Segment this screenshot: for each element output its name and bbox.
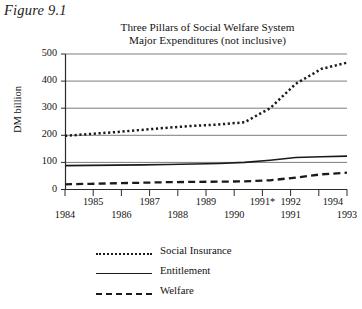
legend-line-sample-icon	[96, 253, 152, 258]
legend-item-label: Welfare	[160, 284, 194, 296]
legend-item: Welfare	[96, 284, 296, 304]
y-axis-tick-label: 200	[23, 128, 57, 139]
y-axis-tick-label: 0	[23, 183, 57, 194]
y-axis-ticks	[61, 54, 65, 190]
x-axis-tick-label-lower: 1984	[42, 209, 88, 220]
y-axis-tick-label: 100	[23, 155, 57, 166]
x-axis-tick-label-lower: 1986	[98, 209, 144, 220]
legend-line-sample-icon	[96, 273, 152, 277]
legend-item-label: Entitlement	[160, 264, 210, 276]
x-axis-tick-label-lower: 1990	[211, 209, 257, 220]
x-axis-tick-label-upper: 1989	[183, 196, 229, 207]
legend-item: Entitlement	[96, 264, 296, 284]
legend-line-sample-icon	[96, 293, 152, 298]
chart-legend: Social InsuranceEntitlementWelfare	[96, 244, 296, 304]
x-axis-tick-label-lower: 1988	[155, 209, 201, 220]
chart-plot-area: DM billion 5004003002001000 198419861988…	[0, 0, 352, 230]
gridlines	[65, 54, 347, 190]
series-line-entitlement	[65, 156, 347, 165]
legend-item: Social Insurance	[96, 244, 296, 264]
x-axis-tick-label-upper: 1994	[310, 196, 356, 207]
series-line-social-insurance	[65, 63, 347, 136]
x-axis-tick-label-lower: 1991	[268, 209, 314, 220]
y-axis-tick-label: 400	[23, 74, 57, 85]
x-axis-tick-label-upper: 1992	[268, 196, 314, 207]
y-axis-tick-label: 500	[23, 47, 57, 58]
legend-item-label: Social Insurance	[160, 244, 232, 256]
x-axis-tick-label-upper: 1985	[70, 196, 116, 207]
x-axis-tick-label-lower: 1993	[324, 209, 362, 220]
x-axis-tick-label-upper: 1987	[127, 196, 173, 207]
series-line-welfare	[65, 173, 347, 185]
y-axis-tick-label: 300	[23, 101, 57, 112]
